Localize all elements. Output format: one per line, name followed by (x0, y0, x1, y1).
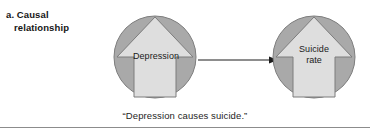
node-suicide-rate (273, 16, 355, 98)
diagram-stage (0, 0, 370, 110)
figure-panel-causal-relationship: a. Causal relationship Depressio (0, 0, 370, 131)
figure-caption: “Depression causes suicide.” (0, 110, 370, 121)
connector-arrow-right (198, 56, 278, 63)
bottom-divider (0, 127, 370, 128)
node-depression (114, 16, 196, 98)
